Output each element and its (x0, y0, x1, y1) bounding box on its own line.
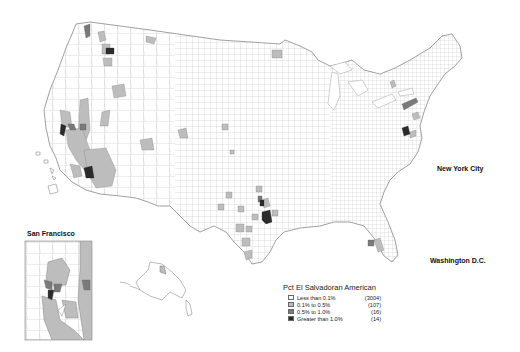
legend-item: 0.5% to 1.0% (16) (283, 308, 413, 315)
legend-label: Less than 0.1% (297, 295, 359, 301)
legend-count: (107) (359, 302, 381, 308)
legend-swatch (288, 295, 294, 300)
legend-label: 0.1% to 0.5% (297, 302, 359, 308)
legend-item: Greater than 1.0% (14) (283, 315, 413, 322)
legend-swatch (288, 309, 294, 314)
legend-count: (16) (359, 309, 381, 315)
inset-san-francisco (25, 241, 92, 340)
legend-swatch (288, 302, 294, 307)
legend: Pct El Salvadoran American Less than 0.1… (283, 283, 413, 322)
legend-count: (3004) (359, 295, 381, 301)
legend-item: Less than 0.1% (3004) (283, 294, 413, 301)
legend-label: Greater than 1.0% (297, 316, 359, 322)
legend-item: 0.1% to 0.5% (107) (283, 301, 413, 308)
legend-count: (14) (359, 316, 381, 322)
legend-title: Pct El Salvadoran American (283, 283, 413, 292)
inset-title-san-francisco: San Francisco (27, 230, 75, 237)
legend-label: 0.5% to 1.0% (297, 309, 359, 315)
inset-title-washington-dc: Washington D.C. (430, 257, 486, 264)
legend-swatch (288, 316, 294, 321)
hawaii (36, 152, 58, 194)
alaska (120, 262, 192, 316)
inset-title-new-york-city: New York City (437, 165, 483, 172)
choropleth-map (0, 0, 520, 352)
